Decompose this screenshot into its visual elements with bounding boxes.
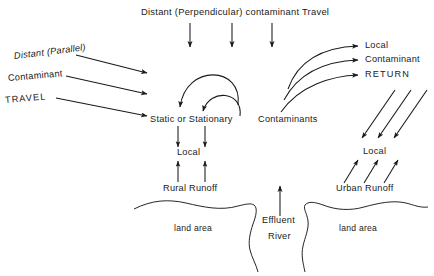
return-descent-arrows	[362, 90, 427, 138]
return-label-line3: RETURN	[365, 70, 410, 79]
local-right-label: Local	[363, 147, 386, 156]
static-to-local-arrows	[178, 126, 205, 147]
effluent-river-label-line1: Effluent	[262, 216, 295, 225]
urban-runoff-label: Urban Runoff	[336, 184, 393, 193]
perpendicular-travel-arrows	[190, 23, 272, 47]
contaminants-label: Contaminants	[258, 115, 318, 124]
effluent-river-label-line2: River	[268, 232, 291, 241]
return-label-line1: Local	[365, 41, 388, 50]
land-area-right-outline	[302, 202, 428, 272]
rural-runoff-label: Rural Runoff	[163, 184, 217, 193]
contaminant-return-curves	[281, 46, 358, 112]
static-or-stationary-label: Static or Stationary	[150, 115, 233, 124]
land-area-right-label: land area	[339, 224, 377, 233]
return-label-line2: Contaminant	[365, 55, 420, 64]
land-area-left-outline	[134, 201, 258, 272]
parallel-travel-arrows	[56, 55, 147, 116]
perpendicular-travel-label: Distant (Perpendicular) contaminant Trav…	[141, 7, 329, 16]
recirculation-arcs	[180, 75, 240, 116]
land-area-left-label: land area	[174, 224, 212, 233]
rural-runoff-arrows	[178, 161, 205, 182]
local-left-label: Local	[177, 148, 200, 157]
contaminant-travel-diagram: Distant (Perpendicular) contaminant Trav…	[0, 0, 434, 276]
urban-runoff-arrows	[344, 160, 398, 183]
